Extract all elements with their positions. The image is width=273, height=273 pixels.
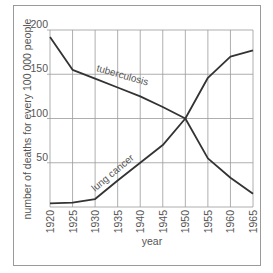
x-axis-ticks: 1920192519301935194019451950195519601965 (44, 210, 259, 234)
y-axis-ticks: 50100150200 (30, 18, 48, 163)
x-tick-label: 1925 (67, 210, 79, 234)
x-tick-label: 1960 (224, 210, 236, 234)
y-tick-label: 50 (36, 151, 48, 163)
series-line-tuberculosis (50, 37, 253, 194)
series-label-tuberculosis: tuberculosis (95, 62, 149, 87)
x-tick-label: 1935 (112, 210, 124, 234)
series-label-lung-cancer: lung cancer (89, 151, 136, 193)
y-axis-label: number of deaths for every 100 000 peopl… (21, 18, 33, 219)
y-tick-label: 150 (30, 62, 48, 74)
line-chart: 50100150200 1920192519301935194019451950… (0, 0, 273, 273)
x-tick-label: 1965 (247, 210, 259, 234)
y-tick-label: 200 (30, 18, 48, 30)
grid-lines (47, 30, 253, 207)
x-tick-label: 1955 (202, 210, 214, 234)
y-tick-label: 100 (30, 107, 48, 119)
x-tick-label: 1930 (89, 210, 101, 234)
x-tick-label: 1940 (134, 210, 146, 234)
x-tick-label: 1945 (157, 210, 169, 234)
x-axis-label: year (142, 235, 163, 247)
data-lines (50, 37, 253, 203)
x-tick-label: 1920 (44, 210, 56, 234)
x-tick-label: 1950 (179, 210, 191, 234)
